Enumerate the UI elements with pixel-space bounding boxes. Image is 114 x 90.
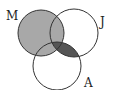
set-j-label: J (98, 15, 105, 29)
set-m-label: M (6, 9, 18, 23)
venn-diagram: M J A (0, 0, 114, 90)
set-a-label: A (83, 76, 93, 90)
